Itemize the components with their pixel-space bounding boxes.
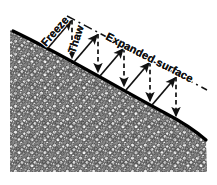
diagram-canvas: Freeze Freeze Thaw Thaw Expanded surface… — [0, 0, 217, 185]
frost-creep-figure: Freeze Freeze Thaw Thaw Expanded surface… — [0, 0, 217, 185]
